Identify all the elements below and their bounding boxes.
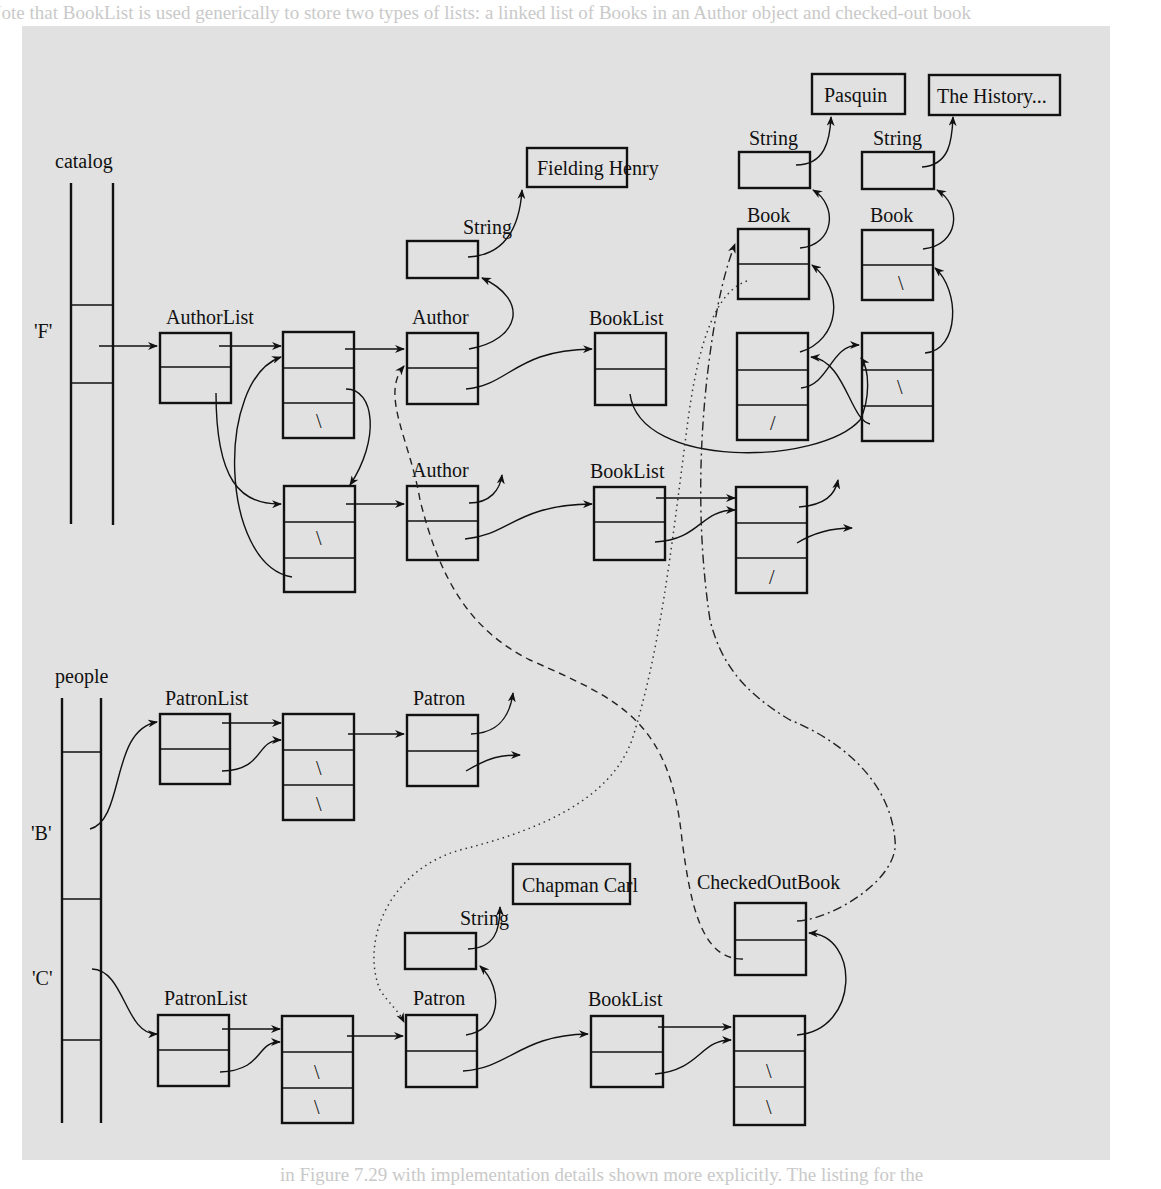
null-marker: \ [766, 1096, 772, 1118]
string-value-text: The History... [937, 85, 1047, 108]
string-label: String [873, 127, 922, 150]
linked-structure-diagram: catalog 'F' AuthorList \ Author String F… [0, 0, 1161, 1189]
booklist-node-2: BookList [590, 460, 665, 560]
checkedoutbook-node: CheckedOutBook [697, 871, 840, 975]
null-marker: / [769, 566, 775, 588]
book-label: Book [870, 204, 913, 226]
patron-list-node-2: \ \ [282, 1016, 353, 1123]
string-label: String [460, 907, 509, 930]
arrow-stub [797, 528, 852, 543]
patron-label: Patron [413, 687, 465, 709]
string-node-author: String [407, 216, 512, 278]
arrow-tail [655, 1040, 731, 1074]
null-marker: \ [314, 1061, 320, 1083]
dashdot-link-checkedout-to-book [701, 244, 896, 921]
author-label: Author [412, 459, 469, 481]
string-node-book-1: String [739, 127, 810, 188]
arrow-to-book-1 [800, 265, 834, 352]
booklist-label: BookList [589, 307, 664, 329]
string-value-pasquin: Pasquin [812, 74, 905, 114]
catalog-slot-F: 'F' [34, 320, 52, 342]
string-value-text: Fielding Henry [537, 157, 659, 180]
null-marker: / [770, 412, 776, 434]
arrow-string-value [796, 117, 831, 165]
arrow-to-book-2 [925, 268, 953, 353]
book-node-1: Book [738, 204, 809, 299]
catalog-array: catalog 'F' [34, 150, 113, 525]
author-list-node-1: \ [283, 332, 354, 438]
null-marker: \ [314, 1096, 320, 1118]
arrow-author-booklist [466, 349, 592, 389]
checkedoutbook-label: CheckedOutBook [697, 871, 840, 893]
book-node-2: Book \ [862, 204, 933, 300]
null-marker: \ [316, 527, 322, 549]
author-label: Author [412, 306, 469, 328]
string-value-text: Chapman Carl [522, 874, 639, 897]
string-node-book-2: String [862, 127, 934, 189]
people-slot-C: 'C' [32, 967, 53, 989]
null-marker: \ [766, 1060, 772, 1082]
arrow-tail [216, 393, 281, 504]
arrow-stub [466, 755, 520, 771]
arrow-tail [655, 510, 735, 542]
catalog-label: catalog [55, 150, 113, 173]
patron-node-2: Patron [406, 987, 477, 1087]
people-array: people 'B' 'C' [31, 665, 108, 1123]
patronlist-label: PatronList [165, 687, 249, 709]
arrow-book-title [923, 190, 954, 249]
null-marker: \ [898, 272, 904, 294]
string-value-history: The History... [929, 75, 1060, 115]
arrow-patron-name [466, 966, 496, 1035]
string-label: String [463, 216, 512, 239]
arrow-stub [799, 480, 838, 507]
booklist-label: BookList [590, 460, 665, 482]
booklist-label: BookList [588, 988, 663, 1010]
checked-list-node: \ \ [734, 1016, 805, 1125]
authorlist-label: AuthorList [166, 306, 254, 328]
string-value-text: Pasquin [824, 84, 887, 107]
arrow-string-value [922, 117, 953, 167]
arrow-patron-booklist [463, 1034, 588, 1071]
book-list-node-1: / [737, 333, 808, 440]
people-slot-B: 'B' [31, 822, 52, 844]
arrow-author-booklist [465, 504, 592, 539]
arrow-book-title [800, 190, 829, 248]
patronlist-label: PatronList [164, 987, 248, 1009]
null-marker: \ [897, 376, 903, 398]
null-marker: \ [316, 410, 322, 432]
null-marker: \ [316, 757, 322, 779]
people-label: people [55, 665, 108, 688]
patron-node-1: Patron [407, 687, 478, 786]
null-marker: \ [316, 793, 322, 815]
author-list-node-2: \ [284, 486, 355, 592]
arrow-stub [469, 475, 502, 503]
patron-label: Patron [413, 987, 465, 1009]
authorlist-node: AuthorList [160, 306, 254, 403]
dashed-link-book-to-author [395, 366, 743, 959]
string-label: String [749, 127, 798, 150]
booklist-node-3: BookList [588, 988, 663, 1087]
string-value-fielding: Fielding Henry [527, 148, 659, 187]
arrow-author-name [469, 278, 513, 349]
booklist-node-1: BookList [589, 307, 666, 405]
book-label: Book [747, 204, 790, 226]
book-list-node-2: \ [862, 333, 933, 441]
patron-list-node-1: \ \ [283, 714, 354, 820]
author-node-2: Author [407, 459, 478, 560]
string-value-chapman: Chapman Carl [513, 864, 639, 904]
patronlist-node-2: PatronList [158, 987, 248, 1086]
dotted-link-book-to-patron [374, 281, 747, 1022]
book-list-node-3: / [736, 487, 807, 593]
